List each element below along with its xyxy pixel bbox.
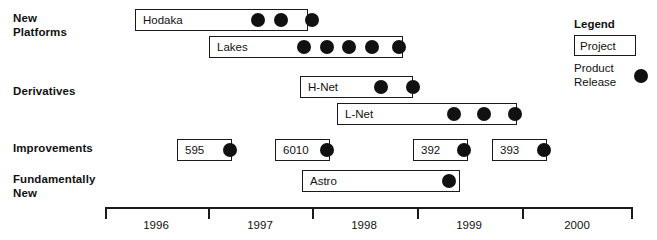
project-bar-label: 595	[185, 144, 204, 156]
product-release-dot-icon[interactable]	[320, 143, 334, 157]
product-release-dot-icon[interactable]	[223, 143, 237, 157]
product-plan-gantt-chart: New PlatformsDerivativesImprovementsFund…	[0, 0, 657, 240]
project-bar-label: Hodaka	[143, 14, 183, 26]
category-label: Fundamentally New	[13, 173, 95, 200]
project-bar[interactable]: Astro	[302, 170, 460, 192]
product-release-dot-icon[interactable]	[442, 174, 456, 188]
project-bar[interactable]: H-Net	[300, 76, 413, 98]
axis-tick-label: 1999	[456, 219, 482, 231]
legend-title: Legend	[574, 18, 654, 30]
category-label: New Platforms	[13, 12, 67, 39]
product-release-dot-icon[interactable]	[297, 40, 311, 54]
product-release-dot-icon[interactable]	[305, 13, 319, 27]
axis-tick	[208, 207, 210, 219]
legend-project-label: Project	[580, 40, 616, 52]
product-release-dot-icon[interactable]	[508, 107, 522, 121]
project-bar-label: 6010	[283, 144, 309, 156]
product-release-dot-icon[interactable]	[537, 143, 551, 157]
axis-tick	[522, 207, 524, 219]
category-label: Derivatives	[13, 85, 75, 99]
axis-start-cap	[105, 207, 107, 219]
category-label: Improvements	[13, 142, 93, 156]
axis-tick	[417, 207, 419, 219]
axis-tick-label: 1996	[143, 219, 169, 231]
project-bar-label: 392	[421, 144, 440, 156]
project-bar-label: Lakes	[217, 41, 248, 53]
project-bar-label: Astro	[310, 175, 337, 187]
legend: Legend Project Product Release	[574, 18, 654, 90]
axis-tick-label: 2000	[564, 219, 590, 231]
product-release-dot-icon[interactable]	[374, 80, 388, 94]
axis-tick-label: 1997	[247, 219, 273, 231]
legend-release-row: Product Release	[574, 62, 654, 90]
legend-release-label: Product Release	[574, 62, 616, 89]
legend-project-swatch: Project	[574, 35, 636, 56]
product-release-dot-icon	[634, 69, 648, 83]
axis-end-cap	[631, 207, 633, 219]
product-release-dot-icon[interactable]	[447, 107, 461, 121]
product-release-dot-icon[interactable]	[274, 13, 288, 27]
axis-tick-label: 1998	[351, 219, 377, 231]
product-release-dot-icon[interactable]	[457, 143, 471, 157]
project-bar-label: H-Net	[308, 81, 338, 93]
product-release-dot-icon[interactable]	[342, 40, 356, 54]
axis-tick	[312, 207, 314, 219]
product-release-dot-icon[interactable]	[477, 107, 491, 121]
product-release-dot-icon[interactable]	[392, 40, 406, 54]
product-release-dot-icon[interactable]	[251, 13, 265, 27]
product-release-dot-icon[interactable]	[365, 40, 379, 54]
project-bar-label: L-Net	[345, 108, 373, 120]
product-release-dot-icon[interactable]	[320, 40, 334, 54]
axis-baseline	[105, 207, 633, 209]
project-bar-label: 393	[500, 144, 519, 156]
product-release-dot-icon[interactable]	[406, 80, 420, 94]
